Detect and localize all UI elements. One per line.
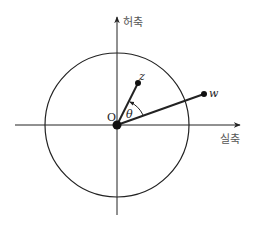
imaginary-axis-label: 허축 [123,16,143,29]
angle-label: θ [126,108,133,121]
point-z-label: z [138,70,145,83]
complex-plane-diagram: 허축 실축 O θ z w [0,0,257,227]
point-w [201,91,207,97]
real-axis-label: 실축 [220,133,240,146]
origin-label: O [107,111,116,124]
point-w-label: w [209,87,219,100]
